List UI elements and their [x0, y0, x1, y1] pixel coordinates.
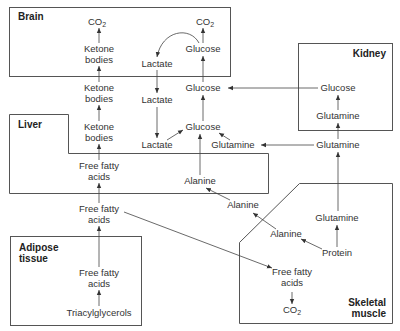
kidney-title: Kidney [353, 48, 387, 59]
muscle-ffa-line1: Free fatty [272, 266, 312, 277]
kidney-glucose: Glucose [321, 82, 356, 93]
liver-lactate: Lactate [141, 139, 172, 150]
liver-title: Liver [18, 119, 42, 130]
muscle-ffa-line2: acids [281, 277, 303, 288]
brain-lactate: Lactate [141, 58, 172, 69]
blood-ffa-line2: acids [88, 214, 110, 225]
muscle-glutamine: Glutamine [315, 212, 358, 223]
liver-glutamine: Glutamine [211, 139, 254, 150]
arrow-muscle-alanine-to-blood [253, 213, 276, 229]
muscle-title-line2: muscle [352, 308, 387, 319]
blood-glutamine: Glutamine [316, 139, 359, 150]
liver-box [10, 115, 269, 194]
brain-ketone-line1: Ketone [84, 43, 114, 54]
liver-ketone-line2: bodies [85, 132, 113, 143]
adipose-title-line2: tissue [19, 253, 48, 264]
adipose-title-line1: Adipose [19, 242, 59, 253]
arrow-liver-lactate-to-glucose [167, 130, 183, 140]
liver-ketone-line1: Ketone [84, 121, 114, 132]
liver-glucose: Glucose [186, 121, 221, 132]
liver-alanine: Alanine [184, 175, 216, 186]
brain-glucose: Glucose [186, 43, 221, 54]
blood-glucose: Glucose [186, 82, 221, 93]
liver-ffa-line1: Free fatty [79, 160, 119, 171]
kidney-glutamine: Glutamine [316, 110, 359, 121]
blood-alanine: Alanine [227, 199, 259, 210]
adipose-ffa-line1: Free fatty [79, 267, 119, 278]
adipose-ffa-line2: acids [88, 278, 110, 289]
metabolic-exchange-diagram: Brain Liver Kidney Adipose tissue Skelet… [0, 0, 400, 331]
arrow-blood-ffa-to-muscle [124, 212, 272, 268]
brain-co2-glucose: CO2 [196, 16, 214, 28]
muscle-protein: Protein [322, 247, 352, 258]
blood-lactate: Lactate [141, 94, 172, 105]
arrow-protein-to-alanine [301, 239, 322, 249]
muscle-co2: CO2 [283, 304, 301, 316]
brain-ketone-line2: bodies [85, 54, 113, 65]
muscle-alanine: Alanine [270, 228, 302, 239]
liver-ffa-line2: acids [88, 171, 110, 182]
blood-ketone-line1: Ketone [84, 82, 114, 93]
brain-title: Brain [18, 11, 44, 22]
adipose-triacylglycerols: Triacylglycerols [66, 307, 131, 318]
brain-co2-ketone: CO2 [88, 16, 106, 28]
muscle-title-line1: Skeletal [348, 297, 386, 308]
blood-ketone-line2: bodies [85, 93, 113, 104]
blood-ffa-line1: Free fatty [79, 203, 119, 214]
